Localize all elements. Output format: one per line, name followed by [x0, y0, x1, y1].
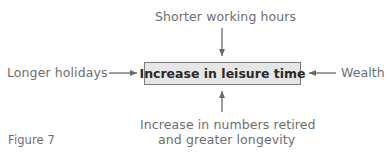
center-box: Increase in leisure time [144, 62, 301, 85]
figure-caption: Figure 7 [8, 133, 55, 147]
label-right: Wealth [341, 65, 385, 80]
label-bottom-line1: Increase in numbers retired [140, 117, 316, 132]
label-left: Longer holidays [7, 65, 108, 80]
label-top: Shorter working hours [155, 9, 296, 24]
label-bottom-line2: and greater longevity [158, 132, 295, 147]
